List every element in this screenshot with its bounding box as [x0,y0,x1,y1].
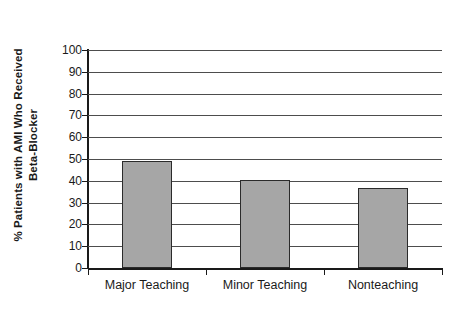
plot-area [88,50,442,268]
y-axis-tick-label: 100 [48,44,82,56]
x-axis-category-label: Nonteaching [324,277,442,293]
gridline [88,72,442,73]
y-axis-tick-labels: 0102030405060708090100 [42,0,82,311]
y-axis-tick-label: 30 [48,197,82,209]
x-axis-category-labels: Major TeachingMinor TeachingNonteaching [88,277,442,299]
y-axis-tick [82,224,87,225]
y-axis-tick [82,181,87,182]
y-axis-tick [82,94,87,95]
bar-chart: % Patients with AMI Who Received Beta-Bl… [0,0,469,311]
x-axis-tick [206,268,207,275]
y-axis-tick-label: 90 [48,66,82,78]
y-axis-tick [82,203,87,204]
bar [240,180,290,268]
x-axis-tick [442,268,443,275]
gridline [88,94,442,95]
y-axis-tick [82,115,87,116]
y-axis-tick-label: 20 [48,218,82,230]
y-axis-tick-label: 0 [48,262,82,274]
y-axis-tick [82,50,87,51]
x-axis-baseline [88,268,442,270]
bar [358,188,408,268]
y-axis-tick [82,268,87,269]
x-axis-tick [324,268,325,275]
y-axis-tick-label: 10 [48,240,82,252]
y-axis-tick-label: 60 [48,131,82,143]
x-axis-category-label: Minor Teaching [206,277,324,293]
x-axis-category-label: Major Teaching [88,277,206,293]
y-axis-title-line-1: % Patients with AMI Who Received [12,48,24,241]
gridline [88,137,442,138]
y-axis-tick-label: 40 [48,175,82,187]
y-axis-tick [82,137,87,138]
y-axis-tick [82,72,87,73]
gridline [88,50,442,51]
y-axis-tick-label: 50 [48,153,82,165]
gridline [88,159,442,160]
x-axis-tick [88,268,89,275]
y-axis-tick [82,159,87,160]
y-axis-tick-label: 80 [48,88,82,100]
y-axis-tick [82,246,87,247]
bar [122,161,172,268]
y-axis-tick-label: 70 [48,109,82,121]
y-axis-title-line-2: Beta-Blocker [26,48,41,241]
gridline [88,115,442,116]
